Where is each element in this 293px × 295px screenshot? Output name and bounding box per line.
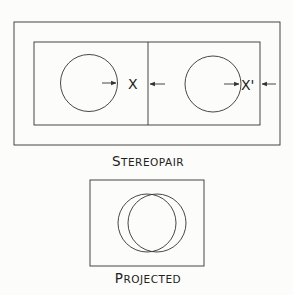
stereopair-caption: STEREOPAIR [112,153,184,169]
projected-right-circle [128,194,186,252]
projected-caption-rest: ROJECTED [123,273,181,285]
left-distance-label: X [128,76,138,92]
stereopair-caption-initial: S [112,153,121,169]
projected-frame [90,180,204,266]
stereo-diagram: X X' STEREOPAIR PROJECTED [0,0,293,295]
projected-figure [90,180,204,266]
stereopair-caption-rest: TEREOPAIR [120,156,184,168]
right-distance-label: X' [241,77,254,93]
projected-left-circle [118,194,176,252]
projected-caption-initial: P [115,270,124,286]
stereopair-inner-frame [34,42,260,125]
projected-caption: PROJECTED [115,270,181,286]
